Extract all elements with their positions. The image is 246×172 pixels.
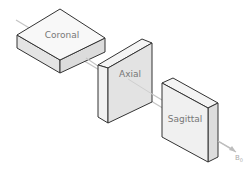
b0-axis-segment [86, 58, 98, 66]
axial-left-face [98, 65, 108, 123]
b0-axis-exit [218, 141, 232, 149]
b0-axis-segment-2 [152, 94, 162, 100]
mri-planes-diagram: Coronal Axial Sagittal B0 [0, 0, 246, 172]
sagittal-label: Sagittal [168, 114, 203, 124]
b0-label: B0 [235, 154, 243, 163]
b0-label-subscript: 0 [240, 157, 243, 163]
sagittal-right-face [208, 103, 218, 162]
b0-arrow-head [229, 146, 236, 152]
sagittal-plane: Sagittal [162, 78, 218, 162]
coronal-plane: Coronal [17, 9, 105, 73]
axial-plane: Axial [98, 39, 152, 123]
axial-label: Axial [119, 69, 141, 79]
coronal-label: Coronal [45, 30, 80, 40]
